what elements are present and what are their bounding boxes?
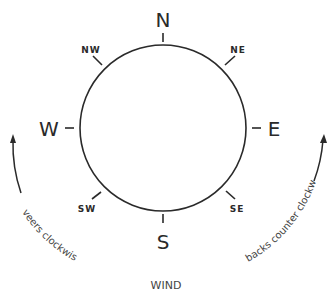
compass-circle — [80, 45, 246, 211]
label-w: W — [39, 117, 59, 141]
compass-ticks — [65, 33, 261, 223]
veers-arrow — [13, 140, 21, 193]
backs-arrow — [314, 140, 323, 181]
label-nw: NW — [81, 45, 100, 55]
veers-arrowhead-icon — [10, 134, 16, 143]
label-s: S — [157, 230, 170, 254]
label-n: N — [156, 8, 171, 32]
backs-arrowhead-icon — [320, 134, 327, 143]
compass-diagram: N S W E NW NE SW SE veers clockwise back… — [0, 0, 333, 297]
label-e: E — [268, 117, 281, 141]
diagram-title: WIND — [151, 279, 182, 292]
label-se: SE — [230, 204, 245, 214]
label-ne: NE — [230, 45, 246, 55]
label-sw: SW — [78, 204, 96, 214]
